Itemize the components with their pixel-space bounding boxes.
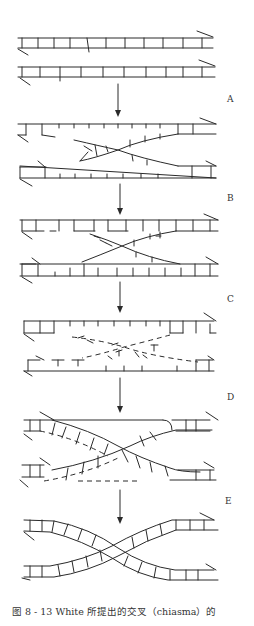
arrow-down-icon bbox=[117, 282, 123, 313]
arrow-down-icon bbox=[117, 184, 123, 215]
stage-b-diagram bbox=[20, 214, 218, 283]
stage-label-e: E bbox=[225, 496, 232, 506]
stage-c-diagram bbox=[24, 313, 216, 376]
stage-label-c: C bbox=[227, 294, 234, 304]
arrow-down-icon bbox=[117, 378, 123, 413]
stage-label-a: A bbox=[227, 94, 234, 104]
stage-d-diagram bbox=[20, 412, 218, 487]
stage-label-b: B bbox=[227, 193, 234, 203]
stage-label-d: D bbox=[227, 392, 234, 402]
figure-caption: 图 8 - 13 White 所提出的交叉（chiasma）的 bbox=[12, 604, 217, 618]
arrow-down-icon bbox=[117, 490, 123, 524]
diagram-canvas-lower bbox=[0, 0, 254, 626]
